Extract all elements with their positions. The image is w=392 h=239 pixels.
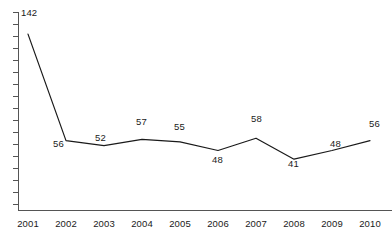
data-point-label: 58 (251, 114, 262, 124)
data-point-label: 48 (212, 155, 223, 165)
x-axis-tick-label: 2005 (169, 218, 191, 229)
chart-plot-area (0, 0, 392, 239)
data-point-label: 56 (53, 139, 64, 149)
x-axis-tick-label: 2008 (283, 218, 305, 229)
data-point-label: 56 (369, 119, 380, 129)
x-axis-tick-label: 2007 (245, 218, 267, 229)
x-axis-tick-label: 2003 (93, 218, 115, 229)
x-axis-tick-label: 2006 (207, 218, 229, 229)
x-axis-tick-label: 2001 (17, 218, 39, 229)
x-axis-tick-label: 2002 (55, 218, 77, 229)
y-axis-ticks (13, 13, 19, 205)
x-axis-tick-label: 2004 (131, 218, 153, 229)
x-axis-tick-label: 2009 (321, 218, 343, 229)
data-point-label: 52 (95, 133, 106, 143)
data-point-label: 142 (21, 8, 37, 18)
x-axis-tick-label: 2010 (359, 218, 381, 229)
line-chart: 142565257554858414856 200120022003200420… (0, 0, 392, 239)
data-point-label: 57 (136, 117, 147, 127)
data-point-label: 48 (330, 139, 341, 149)
data-series-line (28, 34, 370, 159)
data-point-label: 55 (174, 122, 185, 132)
data-point-label: 41 (288, 159, 299, 169)
